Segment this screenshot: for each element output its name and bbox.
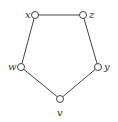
node-v: [57, 96, 64, 103]
node-y: [95, 64, 102, 71]
cycle-graph-diagram: x z w y v: [0, 0, 118, 122]
edge-z-y: [83, 15, 98, 67]
node-x: [32, 12, 39, 19]
node-z: [80, 12, 87, 19]
label-v: v: [57, 107, 63, 118]
label-x: x: [25, 9, 31, 20]
label-z: z: [88, 9, 95, 20]
edge-v-w: [21, 67, 60, 99]
nodes: [18, 12, 102, 103]
label-w: w: [8, 61, 17, 72]
edges: [21, 15, 98, 99]
node-w: [18, 64, 25, 71]
edge-y-v: [60, 67, 98, 99]
label-y: y: [103, 61, 110, 72]
edge-w-x: [21, 15, 35, 67]
